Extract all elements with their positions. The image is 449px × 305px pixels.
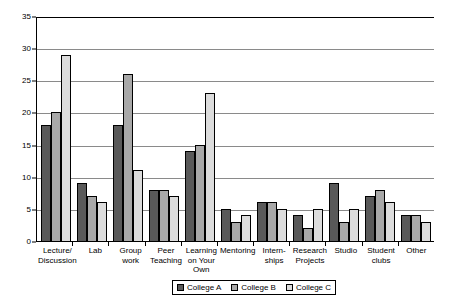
bar[interactable] — [277, 209, 287, 241]
x-axis-labels: Lecture/ DiscussionLabGroup workPeer Tea… — [37, 246, 434, 275]
x-axis-label: Research Projects — [292, 246, 328, 275]
bar-chart: 05101520253035 Lecture/ DiscussionLabGro… — [0, 0, 449, 305]
legend-label: College B — [241, 283, 276, 292]
bar[interactable] — [313, 209, 323, 241]
bar-group — [290, 17, 326, 241]
x-axis-label: Peer Teaching — [148, 246, 183, 275]
bar[interactable] — [87, 196, 97, 241]
legend-label: College C — [296, 283, 331, 292]
bar[interactable] — [329, 183, 339, 241]
bar-group — [326, 17, 362, 241]
bar[interactable] — [185, 151, 195, 241]
x-axis-label: Intern- ships — [257, 246, 292, 275]
bar-group — [182, 17, 218, 241]
bar[interactable] — [385, 202, 395, 241]
bar[interactable] — [113, 125, 123, 241]
bar-group — [38, 17, 74, 241]
legend-label: College A — [187, 283, 221, 292]
bar-group — [254, 17, 290, 241]
plot-area — [36, 17, 434, 242]
x-axis-label: Lecture/ Discussion — [37, 246, 78, 275]
legend-swatch-icon — [177, 284, 184, 291]
x-axis-label: Other — [399, 246, 434, 275]
bar[interactable] — [257, 202, 267, 241]
bar[interactable] — [349, 209, 359, 241]
bar[interactable] — [365, 196, 375, 241]
bar[interactable] — [221, 209, 231, 241]
bar[interactable] — [149, 190, 159, 241]
bar[interactable] — [61, 55, 71, 241]
bar[interactable] — [231, 222, 241, 241]
legend-item[interactable]: College B — [231, 283, 276, 292]
bar-group — [398, 17, 434, 241]
bar[interactable] — [303, 228, 313, 241]
legend-swatch-icon — [286, 284, 293, 291]
bar-group — [74, 17, 110, 241]
x-axis-label: Mentoring — [219, 246, 257, 275]
bar[interactable] — [339, 222, 349, 241]
bar[interactable] — [401, 215, 411, 241]
bar[interactable] — [375, 190, 385, 241]
bar[interactable] — [205, 93, 215, 241]
bar[interactable] — [41, 125, 51, 241]
legend-item[interactable]: College C — [286, 283, 331, 292]
bar-group — [218, 17, 254, 241]
bar-group — [146, 17, 182, 241]
x-axis-label: Studio — [328, 246, 363, 275]
bar[interactable] — [411, 215, 421, 241]
x-axis-label: Lab — [78, 246, 113, 275]
bar[interactable] — [123, 74, 133, 241]
x-axis-label: Student clubs — [363, 246, 398, 275]
bar[interactable] — [195, 145, 205, 241]
bar-group — [362, 17, 398, 241]
bar[interactable] — [133, 170, 143, 241]
bar[interactable] — [97, 202, 107, 241]
bar[interactable] — [77, 183, 87, 241]
bar-group — [110, 17, 146, 241]
chart-legend: College ACollege BCollege C — [172, 280, 336, 295]
bar[interactable] — [159, 190, 169, 241]
bar[interactable] — [267, 202, 277, 241]
bar[interactable] — [169, 196, 179, 241]
x-axis-label: Learning on Your Own — [184, 246, 219, 275]
bar[interactable] — [241, 215, 251, 241]
bar-groups — [38, 17, 434, 241]
bar[interactable] — [293, 215, 303, 241]
x-axis-label: Group work — [113, 246, 148, 275]
bar[interactable] — [51, 112, 61, 241]
legend-item[interactable]: College A — [177, 283, 221, 292]
bar[interactable] — [421, 222, 431, 241]
legend-swatch-icon — [231, 284, 238, 291]
y-axis: 05101520253035 — [0, 17, 36, 242]
